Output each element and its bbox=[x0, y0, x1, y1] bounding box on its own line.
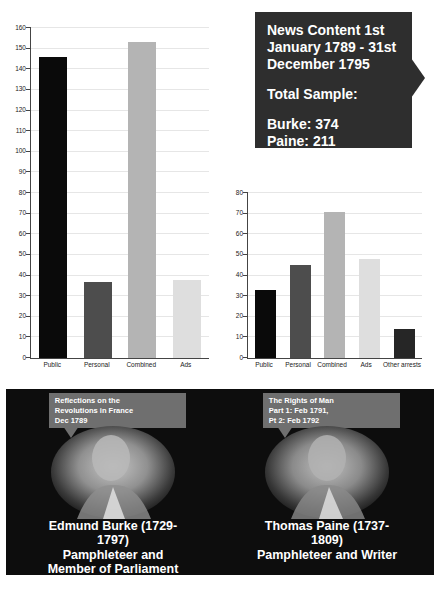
figure-name: Thomas Paine (1737- 1809) bbox=[242, 519, 412, 548]
y-tick-label: 140 bbox=[15, 66, 26, 73]
bar-personal bbox=[84, 282, 112, 358]
bar-combined bbox=[128, 42, 156, 358]
paine-bar-chart: 01020304050607080 PublicPersonalCombined… bbox=[221, 193, 431, 368]
x-tick-label: Personal bbox=[75, 361, 120, 368]
speech-bubble: Reflections on the Revolutions in France… bbox=[49, 393, 186, 428]
y-tick-label: 80 bbox=[236, 190, 243, 197]
plot-area bbox=[247, 193, 422, 359]
summary-callout: News Content 1st January 1789 - 31st Dec… bbox=[255, 12, 412, 148]
y-tick-label: 50 bbox=[236, 252, 243, 259]
bar-slot bbox=[387, 193, 422, 358]
x-tick-label: Combined bbox=[315, 361, 349, 368]
x-tick-label: Other arrests bbox=[383, 361, 421, 368]
callout-subtitle: Total Sample: bbox=[267, 86, 400, 103]
bar-slot bbox=[318, 193, 353, 358]
callout-arrow-right bbox=[411, 58, 425, 98]
y-tick-label: 60 bbox=[19, 231, 26, 238]
burke-total: Burke: 374 bbox=[267, 116, 400, 133]
bar-public bbox=[39, 57, 67, 358]
x-tick-label: Ads bbox=[349, 361, 383, 368]
bar-slot bbox=[283, 193, 318, 358]
callout-title: News Content 1st January 1789 - 31st Dec… bbox=[267, 22, 400, 73]
y-tick-label: 80 bbox=[19, 190, 26, 197]
speech-bubble: The Rights of Man Part 1: Feb 1791, Pt 2… bbox=[263, 393, 400, 428]
y-tick-label: 20 bbox=[19, 314, 26, 321]
bar-slot bbox=[352, 193, 387, 358]
y-tick-label: 150 bbox=[15, 45, 26, 52]
portrait-paine bbox=[263, 425, 391, 519]
x-tick-label: Combined bbox=[119, 361, 164, 368]
y-axis: 0102030405060708090100110120130140150160 bbox=[4, 28, 28, 358]
y-tick-label: 10 bbox=[19, 334, 26, 341]
y-tick-label: 10 bbox=[236, 334, 243, 341]
bar-public bbox=[255, 290, 276, 358]
figure-caption: Thomas Paine (1737- 1809) Pamphleteer an… bbox=[220, 519, 434, 562]
plot-area bbox=[30, 28, 209, 359]
bar-slot bbox=[165, 28, 210, 358]
bar-ads bbox=[173, 280, 201, 358]
bar-slot bbox=[31, 28, 76, 358]
bar-other-arrests bbox=[394, 329, 415, 358]
y-tick-label: 40 bbox=[236, 272, 243, 279]
bar-combined bbox=[324, 212, 345, 358]
y-tick-label: 120 bbox=[15, 107, 26, 114]
x-axis-labels: PublicPersonalCombinedAds bbox=[30, 361, 208, 368]
x-tick-label: Personal bbox=[281, 361, 315, 368]
y-tick-label: 100 bbox=[15, 149, 26, 156]
figure-role: Pamphleteer and Writer bbox=[232, 548, 422, 562]
y-tick-label: 20 bbox=[236, 314, 243, 321]
y-tick-label: 30 bbox=[236, 293, 243, 300]
bar-slot bbox=[120, 28, 165, 358]
y-tick-label: 60 bbox=[236, 231, 243, 238]
figures-panel: Reflections on the Revolutions in France… bbox=[6, 389, 434, 575]
figure-name: Edmund Burke (1729- 1797) bbox=[28, 519, 198, 548]
bar-personal bbox=[290, 265, 311, 358]
bar-ads bbox=[359, 259, 380, 358]
y-tick-label: 30 bbox=[19, 293, 26, 300]
y-tick-label: 90 bbox=[19, 169, 26, 176]
x-tick-label: Public bbox=[247, 361, 281, 368]
burke-bar-chart: 0102030405060708090100110120130140150160… bbox=[4, 28, 216, 368]
bar-slot bbox=[248, 193, 283, 358]
x-tick-label: Ads bbox=[164, 361, 209, 368]
y-tick-label: 40 bbox=[19, 272, 26, 279]
y-tick-label: 0 bbox=[22, 355, 26, 362]
y-tick-label: 70 bbox=[19, 210, 26, 217]
x-tick-label: Public bbox=[30, 361, 75, 368]
y-tick-label: 110 bbox=[16, 128, 26, 135]
y-tick-label: 70 bbox=[236, 210, 243, 217]
paine-total: Paine: 211 bbox=[267, 133, 400, 150]
y-tick-label: 130 bbox=[15, 87, 26, 94]
y-tick-label: 0 bbox=[239, 355, 243, 362]
figure-paine: The Rights of Man Part 1: Feb 1791, Pt 2… bbox=[220, 389, 434, 575]
y-tick-label: 160 bbox=[15, 25, 26, 32]
portrait-burke bbox=[49, 425, 177, 519]
figure-burke: Reflections on the Revolutions in France… bbox=[6, 389, 220, 575]
y-tick-label: 50 bbox=[19, 252, 26, 259]
figure-caption: Edmund Burke (1729- 1797) Pamphleteer an… bbox=[6, 519, 220, 577]
x-axis-labels: PublicPersonalCombinedAdsOther arrests bbox=[247, 361, 421, 368]
y-axis: 01020304050607080 bbox=[221, 193, 245, 358]
callout-stats: Burke: 374 Paine: 211 bbox=[267, 116, 400, 150]
figure-role: Pamphleteer and Member of Parliament bbox=[18, 548, 208, 577]
bar-slot bbox=[76, 28, 121, 358]
